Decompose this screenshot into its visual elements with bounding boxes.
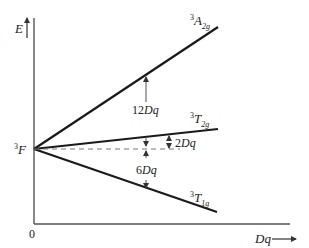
level-label-3T2g: 3T2g <box>190 111 209 129</box>
annotation-12dq: 12Dq <box>132 103 159 117</box>
level-line-3T1g <box>34 149 217 212</box>
level-line-3A2g <box>34 27 218 149</box>
free-ion-term-label: 3F <box>14 142 27 157</box>
origin-label: 0 <box>29 227 35 241</box>
x-axis-label: Dq <box>254 231 271 246</box>
y-axis-label: E <box>14 21 23 36</box>
splitting-diagram: E Dq 0 3F 3A2g 3T2g 3T1g 12Dq 2Dq 6Dq <box>0 0 309 248</box>
annotation-6dq: 6Dq <box>136 163 157 177</box>
annotation-2dq: 2Dq <box>175 136 196 150</box>
level-label-3A2g: 3A2g <box>190 13 210 31</box>
